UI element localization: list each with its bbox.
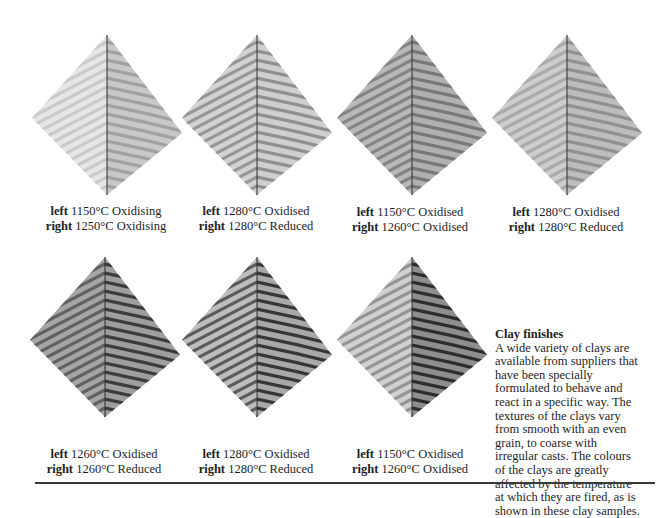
sidebar-body: A wide variety of clays are available fr… <box>495 342 655 518</box>
caption-right-text: 1260°C Oxidised <box>381 220 468 234</box>
caption-right-label: right <box>352 462 378 476</box>
caption-right-label: right <box>199 462 225 476</box>
clay-sample-1 <box>30 33 185 198</box>
caption-left-label: left <box>357 447 374 461</box>
sidebar-line: shown in these clay samples. <box>495 505 655 518</box>
sidebar-line: have been specially <box>495 369 655 383</box>
sidebar-line: irregular casts. The colours <box>495 450 655 464</box>
sidebar-line: affected by the temperature <box>495 478 655 492</box>
caption-right-text: 1280°C Reduced <box>228 462 313 476</box>
clay-sample-4 <box>490 33 645 198</box>
sidebar-line: from smooth with an even <box>495 423 655 437</box>
caption-right-label: right <box>47 462 73 476</box>
caption-left-text: 1280°C Oxidised <box>223 204 310 218</box>
clay-sample-6 <box>180 255 335 420</box>
sidebar-line: react in a specific way. The <box>495 396 655 410</box>
clay-sample-2 <box>180 33 335 198</box>
sidebar-line: formulated to behave and <box>495 382 655 396</box>
caption-left-label: left <box>50 447 67 461</box>
clay-sample-5 <box>28 255 183 420</box>
caption-left-text: 1280°C Oxidised <box>533 205 620 219</box>
caption-right-label: right <box>352 220 378 234</box>
caption-left-label: left <box>202 447 219 461</box>
sidebar-clay-finishes: Clay finishes A wide variety of clays ar… <box>495 328 655 518</box>
caption-left-text: 1150°C Oxidising <box>71 204 161 218</box>
caption-sample-6: left 1280°C Oxidised right 1280°C Reduce… <box>186 447 326 477</box>
sidebar-line: A wide variety of clays are <box>495 342 655 356</box>
caption-left-label: left <box>512 205 529 219</box>
page-divider-rule <box>35 482 655 484</box>
sidebar-line: grain, to coarse with <box>495 437 655 451</box>
caption-right-label: right <box>46 219 72 233</box>
caption-left-label: left <box>51 204 68 218</box>
caption-right-text: 1250°C Oxidising <box>75 219 166 233</box>
caption-right-text: 1260°C Reduced <box>76 462 161 476</box>
caption-left-text: 1280°C Oxidised <box>223 447 310 461</box>
sidebar-line: available from suppliers that <box>495 355 655 369</box>
clay-sample-3 <box>335 33 490 198</box>
sidebar-line: textures of the clays vary <box>495 410 655 424</box>
caption-sample-2: left 1280°C Oxidised right 1280°C Reduce… <box>186 204 326 234</box>
caption-sample-5: left 1260°C Oxidised right 1260°C Reduce… <box>34 447 174 477</box>
caption-right-label: right <box>509 220 535 234</box>
clay-sample-7 <box>335 255 490 420</box>
caption-left-label: left <box>202 204 219 218</box>
caption-sample-1: left 1150°C Oxidising right 1250°C Oxidi… <box>36 204 176 234</box>
caption-right-label: right <box>199 219 225 233</box>
caption-right-text: 1280°C Reduced <box>228 219 313 233</box>
caption-left-text: 1260°C Oxidised <box>71 447 158 461</box>
caption-right-text: 1260°C Oxidised <box>381 462 468 476</box>
sidebar-line: at which they are fired, as is <box>495 491 655 505</box>
caption-right-text: 1280°C Reduced <box>538 220 623 234</box>
sidebar-title: Clay finishes <box>495 328 655 342</box>
caption-left-text: 1150°C Oxidised <box>377 447 463 461</box>
caption-sample-4: left 1280°C Oxidised right 1280°C Reduce… <box>496 205 636 235</box>
caption-left-label: left <box>357 205 374 219</box>
caption-sample-7: left 1150°C Oxidised right 1260°C Oxidis… <box>340 447 480 477</box>
caption-sample-3: left 1150°C Oxidised right 1260°C Oxidis… <box>340 205 480 235</box>
caption-left-text: 1150°C Oxidised <box>377 205 463 219</box>
sidebar-line: of the clays are greatly <box>495 464 655 478</box>
